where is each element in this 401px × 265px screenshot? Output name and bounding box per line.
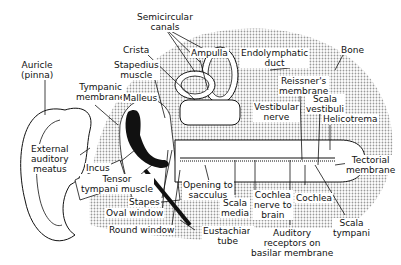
label-scala-vestibuli: Scala vestibuli: [305, 94, 345, 114]
label-ampulla: Ampulla: [190, 48, 229, 58]
label-endolymphatic-duct: Endolymphatic duct: [240, 48, 309, 68]
label-external-auditory-meatus: External auditory meatus: [30, 144, 70, 174]
label-reissners-membrane: Reissner's membrane: [278, 76, 329, 96]
label-round-window: Round window: [108, 225, 175, 235]
label-auditory-receptors: Auditory receptors on basilar membrane: [250, 228, 334, 258]
label-stapes: Stapes: [128, 197, 161, 207]
label-helicotrema: Helicotrema: [322, 114, 379, 124]
label-bone: Bone: [340, 45, 365, 55]
label-cochlea: Cochlea: [295, 193, 333, 203]
label-scala-media: Scala media: [220, 198, 250, 218]
label-stapedius-muscle: Stapedius muscle: [113, 60, 160, 80]
label-cochlea-nerve: Cochlea nerve to brain: [253, 190, 293, 220]
ear-diagram: Auricle (pinna) Semicircular canals Cris…: [0, 0, 401, 265]
label-oval-window: Oval window: [105, 208, 164, 218]
label-scala-tympani: Scala tympani: [332, 218, 371, 238]
label-opening-to-sacculus: Opening to sacculus: [182, 180, 234, 200]
label-crista: Crista: [122, 45, 150, 55]
label-vestibular-nerve: Vestibular nerve: [253, 102, 300, 122]
label-eustachian-tube: Eustachian tube: [202, 226, 254, 246]
label-incus: Incus: [85, 163, 111, 173]
label-tensor-tympani-muscle: Tensor tympani muscle: [80, 174, 154, 194]
label-auricle: Auricle (pinna): [20, 60, 54, 80]
label-tectorial-membrane: Tectorial membrane: [345, 155, 396, 175]
label-malleus: Malleus: [122, 93, 158, 103]
label-semicircular-canals: Semicircular canals: [136, 12, 194, 32]
label-tympanic-membrane: Tympanic membrane: [75, 82, 126, 102]
